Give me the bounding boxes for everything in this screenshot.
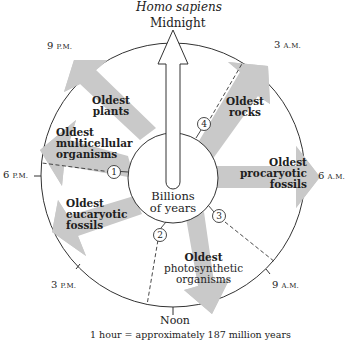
dashed-line-2 (147, 234, 159, 305)
time-9pm: 9 P.M. (47, 41, 72, 52)
time-noon: Noon (160, 315, 190, 327)
midnight-label: Midnight (150, 17, 206, 30)
homo-sapiens-label: Homo sapiens (136, 1, 222, 14)
label-oldest-multicellular: Oldest multicellular organisms (56, 127, 133, 160)
marker-1-label: 1 (107, 165, 121, 179)
geologic-clock-diagram: Homo sapiens Midnight 9 P.M. 3 A.M. 6 P.… (0, 0, 345, 343)
time-3am: 3 A.M. (274, 40, 301, 51)
marker-4-label: 4 (197, 117, 211, 131)
billions-of-years-label: Billions of years (144, 190, 202, 214)
scale-caption: 1 hour = approximately 187 million years (90, 330, 291, 340)
label-oldest-eucaryotic: Oldest eucaryotic fossils (66, 198, 127, 231)
marker-2-label: 2 (153, 228, 167, 242)
time-3pm: 3 P.M. (51, 280, 76, 291)
time-6am: 6 A.M. (318, 171, 345, 182)
label-oldest-plants: Oldest plants (92, 95, 130, 117)
time-9am: 9 A.M. (272, 280, 299, 291)
time-6pm: 6 P.M. (3, 170, 28, 181)
label-oldest-rocks: Oldest rocks (226, 96, 264, 118)
marker-3-label: 3 (212, 209, 226, 223)
label-oldest-procaryotic: Oldest procaryotic fossils (240, 157, 307, 190)
tick-9am (266, 269, 270, 274)
label-oldest-photosynthetic: Oldest photosynthetic organisms (164, 252, 243, 285)
